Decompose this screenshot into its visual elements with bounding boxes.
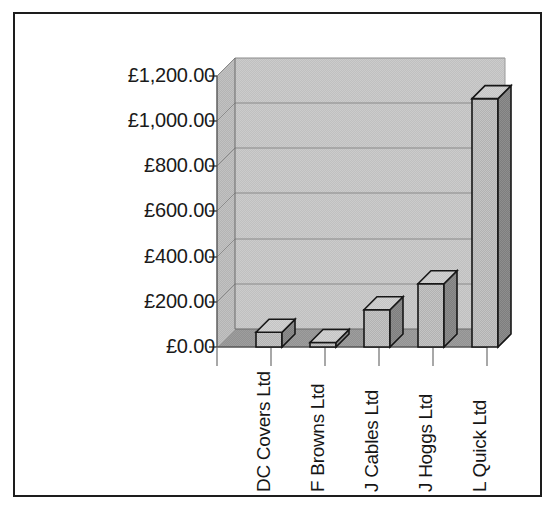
chart-frame: £1,200.00 £1,000.00 £800.00 £600.00 £400… [13, 12, 542, 497]
x-cat-label-j-hoggs-ltd: J Hoggs Ltd [415, 394, 437, 492]
plot-area: £1,200.00 £1,000.00 £800.00 £600.00 £400… [15, 14, 544, 499]
x-axis-category-labels: DC Covers Ltd F Browns Ltd J Cables Ltd … [15, 14, 544, 499]
x-cat-label-j-cables-ltd: J Cables Ltd [361, 390, 383, 492]
x-cat-label-l-quick-ltd: L Quick Ltd [469, 400, 491, 492]
chart-page: £1,200.00 £1,000.00 £800.00 £600.00 £400… [0, 0, 556, 517]
x-cat-label-dc-covers-ltd: DC Covers Ltd [253, 371, 275, 492]
x-cat-label-f-browns-ltd: F Browns Ltd [307, 384, 329, 492]
